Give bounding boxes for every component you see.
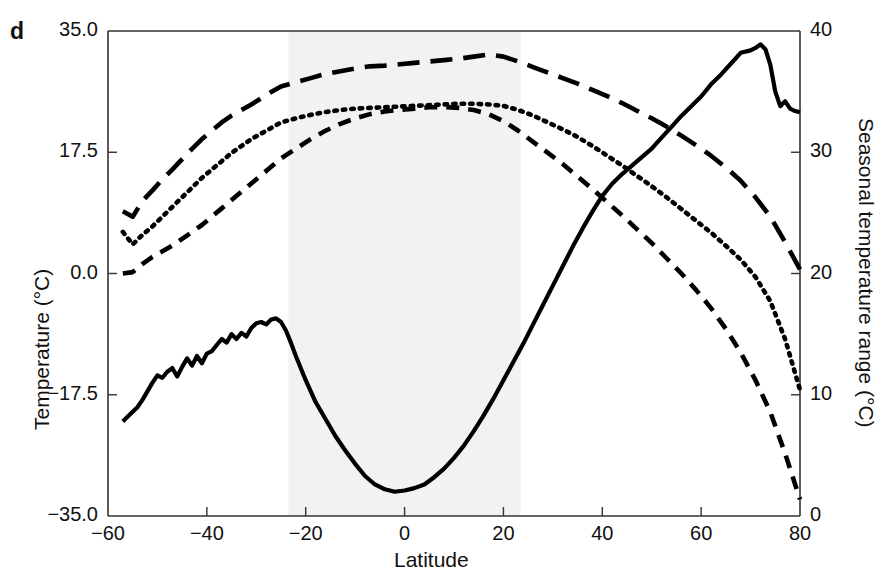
figure-panel-d: d Temperature (°C) Seasonal temperature … <box>0 0 889 585</box>
plot-area <box>0 0 889 585</box>
